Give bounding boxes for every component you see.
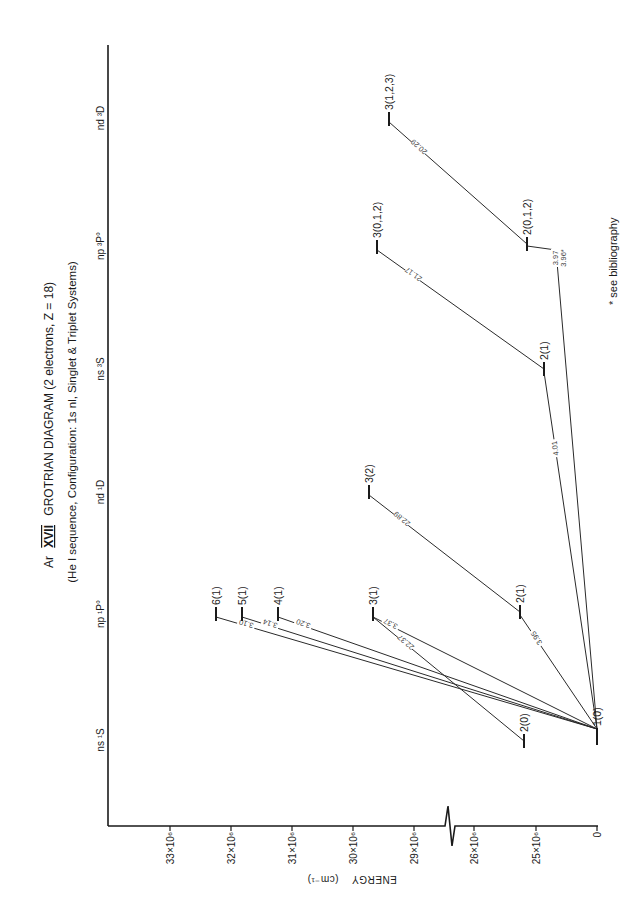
energy-tick-label: 29×10⁶	[409, 832, 420, 864]
wavelength-label-alt: 3.96*	[559, 249, 568, 267]
level-label: 3(1)	[367, 586, 379, 605]
energy-tick-label: 30×10⁶	[348, 832, 359, 864]
footnote-bibliography: * see bibliography	[607, 217, 619, 305]
level-label: 2(0)	[518, 713, 530, 732]
level-label: 2(0,1,2)	[521, 199, 533, 235]
column-labels: ns ¹Snp ¹P°nd ¹Dns ³Snp ³P°nd ³D	[95, 106, 106, 752]
transition-line	[377, 250, 544, 369]
wavelength-label: 3.14	[262, 617, 279, 630]
energy-axis-ticks: 025×10⁶26×10⁶29×10⁶30×10⁶31×10⁶32×10⁶33×…	[165, 826, 603, 864]
column-label-np3P: np ³P°	[95, 232, 106, 260]
energy-tick-label: 32×10⁶	[226, 832, 237, 864]
diagram-svg: Ar XVII GROTRIAN DIAGRAM (2 electrons, Z…	[0, 0, 641, 923]
column-label-nd3D: nd ³D	[95, 106, 106, 130]
level-label: 2(1)	[514, 584, 526, 603]
diagram-title: Ar XVII GROTRIAN DIAGRAM (2 electrons, Z…	[42, 282, 56, 568]
wavelength-label: 3.10	[238, 617, 255, 630]
level-label: 3(2)	[363, 464, 375, 483]
energy-tick-label: 33×10⁶	[165, 832, 176, 864]
energy-tick-label: 25×10⁶	[531, 832, 542, 864]
column-label-ns1S: ns ¹S	[95, 728, 106, 752]
title-main: GROTRIAN DIAGRAM (2 electrons, Z = 18)	[42, 282, 56, 516]
level-label: 2(1)	[538, 341, 550, 360]
grotrian-diagram: Ar XVII GROTRIAN DIAGRAM (2 electrons, Z…	[0, 0, 641, 923]
level-label: 4(1)	[272, 586, 284, 605]
title-element: Ar	[42, 556, 56, 568]
transitions: 3.103.143.203.3722.373.9522.8921.174.013…	[216, 122, 597, 741]
wavelength-label: 22.37	[396, 633, 416, 652]
energy-axis-title: ENERGY (cm⁻¹)	[307, 874, 397, 885]
diagram-subtitle: (He I sequence, Configuration: 1s nl, Si…	[66, 261, 78, 583]
wavelength-label: 3.20	[295, 617, 312, 630]
level-label: 3(0,1,2)	[371, 202, 383, 238]
wavelength-label: 21.17	[403, 265, 423, 283]
title-ion-numeral: XVII	[42, 525, 56, 548]
column-label-ns3S: ns ³S	[95, 357, 106, 381]
level-label: 6(1)	[210, 586, 222, 605]
wavelength-label: 20.29	[409, 137, 429, 156]
level-label: 3(1,2,3)	[383, 74, 395, 110]
transition-line	[389, 122, 527, 244]
transition-line	[373, 617, 524, 741]
transition-line	[242, 617, 597, 729]
energy-tick-label: 26×10⁶	[469, 832, 480, 864]
wavelength-label: 22.89	[392, 509, 412, 528]
energy-tick-label: 0	[592, 832, 603, 838]
column-label-nd1D: nd ¹D	[95, 480, 106, 504]
transition-line	[369, 495, 520, 612]
transition-line	[278, 617, 597, 729]
transition-line	[544, 372, 597, 729]
level-label: 5(1)	[236, 586, 248, 605]
column-label-np1P: np ¹P°	[95, 600, 106, 628]
energy-tick-label: 31×10⁶	[287, 832, 298, 864]
level-label: 1(0)	[591, 707, 603, 726]
wavelength-label: 4.01	[550, 440, 561, 456]
